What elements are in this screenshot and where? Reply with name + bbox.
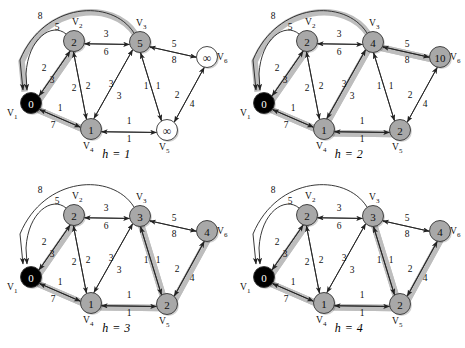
edge-weight-label: 3 — [350, 265, 355, 275]
edge-weight-label: 1 — [144, 81, 149, 91]
edge-weight-label: 7 — [284, 294, 289, 304]
edge-weight-label: 2 — [72, 83, 77, 93]
node-value-label: ∞ — [203, 51, 212, 65]
graph-node-v6[interactable]: 4 — [197, 221, 219, 244]
vertex-index: 2 — [79, 196, 83, 204]
edge-weight-label: 5 — [288, 196, 293, 206]
graph-edge — [84, 218, 129, 219]
graph-node-v6[interactable]: 10 — [430, 47, 452, 70]
edge-weight-label: 2 — [275, 63, 280, 73]
edge-weight-label: 3 — [337, 203, 342, 213]
vertex-index: 6 — [457, 57, 461, 65]
graph-edge — [317, 44, 362, 45]
edge-weight-label: 1 — [360, 308, 365, 318]
graph-panel-4: 85233622331158241711023124V1V2V3V4V5V6h … — [233, 174, 465, 348]
node-value-label: 2 — [397, 125, 403, 137]
edge-weight-label: 3 — [50, 75, 55, 85]
edge-weight-label: 3 — [109, 79, 114, 89]
vertex-letter: V — [305, 191, 312, 201]
edge-weight-label: 8 — [405, 229, 410, 239]
edge-weight-label: 5 — [172, 213, 177, 223]
graph-node-v4[interactable]: 1 — [81, 119, 103, 142]
graph-node-v3[interactable]: 5 — [130, 32, 152, 55]
edge-weight-label: 5 — [405, 39, 410, 49]
highlight-layer — [255, 12, 433, 134]
vertex-letter: V — [7, 282, 14, 292]
node-value-label: 0 — [261, 98, 267, 110]
edge-highlight — [328, 50, 369, 122]
edge-highlight — [272, 284, 316, 303]
vertex-index: 6 — [224, 231, 228, 239]
node-value-label: 1 — [88, 298, 94, 310]
edge-weight-label: 3 — [342, 253, 347, 263]
edge-weight-label: 1 — [156, 81, 161, 91]
vertex-name-label-v3: V3 — [369, 192, 379, 205]
graph-node-v3[interactable]: 3 — [363, 206, 385, 229]
graph-node-v5[interactable]: ∞ — [157, 120, 179, 143]
edge-weight-label: 7 — [51, 120, 56, 130]
node-value-label: 1 — [88, 124, 94, 136]
edge-weight-label: 8 — [172, 229, 177, 239]
edge-weight-label: 2 — [305, 83, 310, 93]
edge-weight-label: 2 — [408, 90, 413, 100]
node-value-label: 4 — [204, 226, 210, 238]
node-value-label: 5 — [137, 37, 143, 49]
edge-weight-label: 3 — [50, 249, 55, 259]
node-value-label: 1 — [321, 298, 327, 310]
edge-weight-label: 4 — [423, 99, 428, 109]
edge-weight-label: 2 — [175, 264, 180, 274]
edge-weight-label: 1 — [144, 255, 149, 265]
edge-weight-label: 2 — [305, 257, 310, 267]
vertex-letter: V — [369, 18, 376, 28]
graph-node-v5[interactable]: 2 — [390, 120, 412, 143]
graph-node-v4[interactable]: 1 — [81, 293, 103, 316]
graph-node-v2[interactable]: 2 — [64, 205, 86, 228]
node-value-label: 10 — [435, 52, 447, 64]
edge-weight-label: 5 — [288, 22, 293, 32]
edge-highlight — [39, 284, 83, 303]
node-value-label: 3 — [370, 211, 376, 223]
graph-node-v3[interactable]: 3 — [130, 206, 152, 229]
vertex-letter: V — [450, 52, 457, 62]
node-value-label: 4 — [370, 37, 376, 49]
graph-node-v2[interactable]: 2 — [297, 205, 319, 228]
vertex-letter: V — [72, 17, 79, 27]
graph-node-v2[interactable]: 2 — [64, 31, 86, 54]
edge-weight-label: 4 — [190, 99, 195, 109]
highlight-layer — [272, 225, 439, 308]
edge-weight-label: 2 — [86, 81, 91, 91]
vertex-name-label-v2: V2 — [305, 191, 315, 204]
graph-edge — [272, 51, 303, 96]
edge-weight-label: 1 — [389, 81, 394, 91]
graph-node-v4[interactable]: 1 — [314, 293, 336, 316]
graph-node-v6[interactable]: ∞ — [197, 47, 219, 70]
vertex-name-label-v1: V1 — [7, 282, 17, 295]
node-value-label: 2 — [397, 299, 403, 311]
edge-weight-label: 6 — [337, 47, 342, 57]
graph-panel-3: 85233622331158241711023124V1V2V3V4V5V6h … — [0, 174, 233, 348]
edge-weight-label: 1 — [360, 116, 365, 126]
graph-node-v6[interactable]: 4 — [430, 221, 452, 244]
graph-node-v4[interactable]: 1 — [314, 119, 336, 142]
edge-weight-label: 3 — [283, 249, 288, 259]
vertex-index: 6 — [224, 57, 228, 65]
vertex-letter: V — [217, 226, 224, 236]
node-value-label: 0 — [28, 272, 34, 284]
edge-highlight — [175, 241, 207, 299]
edge-weight-label: 6 — [104, 47, 109, 57]
edge-weight-label: 5 — [405, 213, 410, 223]
graph-node-v2[interactable]: 2 — [297, 31, 319, 54]
edge-weight-label: 6 — [104, 221, 109, 231]
vertex-index: 1 — [14, 113, 18, 121]
vertex-letter: V — [72, 191, 79, 201]
vertex-name-label-v6: V6 — [217, 52, 227, 65]
node-value-label: 0 — [261, 272, 267, 284]
edge-weight-label: 2 — [175, 90, 180, 100]
graph-edge — [272, 225, 303, 270]
edge-weight-label: 3 — [117, 91, 122, 101]
node-value-label: 2 — [71, 36, 77, 48]
edge-weight-label: 3 — [283, 75, 288, 85]
vertex-index: 2 — [79, 22, 83, 30]
edge-highlight — [273, 51, 306, 99]
vertex-index: 3 — [376, 23, 380, 31]
